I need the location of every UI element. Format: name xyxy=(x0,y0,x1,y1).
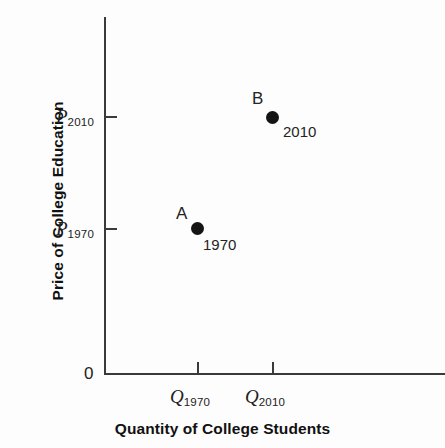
x-axis-title: Quantity of College Students xyxy=(0,420,445,438)
y-tick-label-p1970-sub: 1970 xyxy=(68,228,94,240)
x-tick-label-q2010-var: Q xyxy=(245,386,259,407)
data-point-a-letter: A xyxy=(176,205,187,222)
x-tick-q2010 xyxy=(272,362,274,373)
x-tick-label-q1970-var: Q xyxy=(170,386,184,407)
data-point-a-year: 1970 xyxy=(203,237,236,252)
data-point-a xyxy=(191,222,204,235)
y-axis-title: Price of College Education xyxy=(49,51,67,351)
x-tick-q1970 xyxy=(197,362,199,373)
x-axis-line xyxy=(104,373,445,375)
x-tick-label-q1970-sub: 1970 xyxy=(184,396,210,408)
y-tick-p2010 xyxy=(106,116,117,118)
y-tick-label-p2010-var: P xyxy=(56,106,68,127)
chart-figure: Price of College Education 0 P2010 P1970… xyxy=(0,0,445,448)
y-tick-label-p1970: P1970 xyxy=(56,219,94,241)
data-point-b-letter: B xyxy=(252,90,263,107)
data-point-b xyxy=(266,111,279,124)
data-point-b-year: 2010 xyxy=(283,124,316,139)
y-tick-label-p1970-var: P xyxy=(56,218,68,239)
y-tick-label-p2010-sub: 2010 xyxy=(68,116,94,128)
x-tick-label-q2010-sub: 2010 xyxy=(259,396,285,408)
x-tick-label-q1970: Q1970 xyxy=(170,387,210,409)
y-tick-p1970 xyxy=(106,228,117,230)
x-tick-label-q2010: Q2010 xyxy=(245,387,285,409)
origin-label: 0 xyxy=(84,365,93,382)
y-axis-line xyxy=(104,17,106,374)
y-tick-label-p2010: P2010 xyxy=(56,107,94,129)
